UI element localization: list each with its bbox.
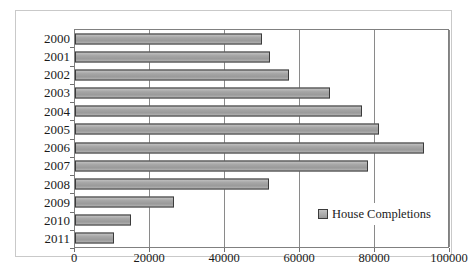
y-axis-labels: 2000200120022003200420052006200720082009… bbox=[32, 29, 74, 248]
y-axis-tick-label: 2000 bbox=[32, 29, 74, 47]
y-axis-tick-label: 2008 bbox=[32, 175, 74, 193]
bar-2004[interactable] bbox=[75, 106, 362, 117]
y-axis-tick-label: 2004 bbox=[32, 102, 74, 120]
x-axis-tick-mark bbox=[224, 248, 225, 252]
x-axis-tick-label: 80000 bbox=[358, 251, 389, 266]
bar-2005[interactable] bbox=[75, 124, 379, 135]
y-axis-tick-label: 2006 bbox=[32, 139, 74, 157]
y-axis-tick-label: 2011 bbox=[32, 230, 74, 248]
y-axis-tick-mark bbox=[70, 84, 74, 85]
y-axis-tick-mark bbox=[70, 139, 74, 140]
x-axis-gridline bbox=[449, 30, 450, 247]
x-axis-tick-label: 100000 bbox=[430, 251, 468, 266]
y-axis-tick-label: 2009 bbox=[32, 193, 74, 211]
y-axis-tick-mark bbox=[70, 193, 74, 194]
chart-row bbox=[75, 102, 448, 120]
chart-row bbox=[75, 157, 448, 175]
y-axis-tick-label: 2010 bbox=[32, 212, 74, 230]
legend-label: House Completions bbox=[332, 207, 431, 222]
bar-2011[interactable] bbox=[75, 232, 114, 243]
y-axis-tick-mark bbox=[70, 66, 74, 67]
y-axis-tick-label: 2001 bbox=[32, 47, 74, 65]
chart-row bbox=[75, 229, 448, 247]
x-axis-tick-label: 20000 bbox=[133, 251, 164, 266]
bar-2003[interactable] bbox=[75, 88, 330, 99]
x-axis-tick-label: 40000 bbox=[208, 251, 239, 266]
y-axis-tick-label: 2003 bbox=[32, 84, 74, 102]
bar-2010[interactable] bbox=[75, 214, 131, 225]
chart-row bbox=[75, 138, 448, 156]
y-axis-tick-label: 2002 bbox=[32, 66, 74, 84]
x-axis-tick-label: 0 bbox=[71, 251, 77, 266]
y-axis-tick-label: 2005 bbox=[32, 120, 74, 138]
x-axis-tick-mark bbox=[374, 248, 375, 252]
bar-2000[interactable] bbox=[75, 34, 262, 45]
chart-row bbox=[75, 175, 448, 193]
x-axis-labels: 020000400006000080000100000 bbox=[74, 251, 449, 269]
bar-2009[interactable] bbox=[75, 196, 174, 207]
bar-2007[interactable] bbox=[75, 160, 368, 171]
x-axis-tick-mark bbox=[449, 248, 450, 252]
bar-2006[interactable] bbox=[75, 142, 424, 153]
chart-legend: House Completions bbox=[312, 203, 437, 225]
chart-row bbox=[75, 48, 448, 66]
y-axis-tick-mark bbox=[70, 175, 74, 176]
chart-row bbox=[75, 30, 448, 48]
chart-frame: 2000200120022003200420052006200720082009… bbox=[15, 10, 452, 257]
chart-row bbox=[75, 84, 448, 102]
x-axis-tick-mark bbox=[299, 248, 300, 252]
bar-2008[interactable] bbox=[75, 178, 269, 189]
bar-2002[interactable] bbox=[75, 70, 289, 81]
legend-swatch-icon bbox=[318, 209, 328, 219]
y-axis-tick-mark bbox=[70, 120, 74, 121]
x-axis-tick-label: 60000 bbox=[283, 251, 314, 266]
x-axis-tick-mark bbox=[149, 248, 150, 252]
x-axis-tick-mark bbox=[74, 248, 75, 252]
y-axis-tick-mark bbox=[70, 47, 74, 48]
y-axis-tick-mark bbox=[70, 212, 74, 213]
y-axis-tick-mark bbox=[70, 102, 74, 103]
chart-row bbox=[75, 120, 448, 138]
y-axis-tick-mark bbox=[70, 157, 74, 158]
y-axis-tick-mark bbox=[70, 230, 74, 231]
chart-row bbox=[75, 66, 448, 84]
y-axis-tick-label: 2007 bbox=[32, 157, 74, 175]
bar-2001[interactable] bbox=[75, 52, 270, 63]
